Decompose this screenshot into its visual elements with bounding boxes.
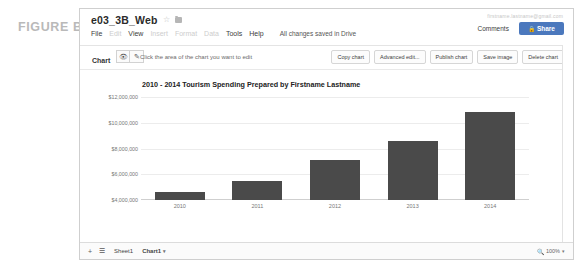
right-edge-strip [562, 45, 573, 243]
y-axis-tick-label: $12,000,000 [86, 94, 138, 100]
figure-label: FIGURE B [18, 20, 83, 34]
zoom-control[interactable]: 🔍 100% ▾ [537, 248, 565, 255]
document-title-row: e03_3B_Web ☆ [91, 14, 182, 26]
copy-chart-button[interactable]: Copy chart [331, 50, 370, 64]
x-axis-tick-label: 2011 [219, 203, 297, 209]
share-button[interactable]: 🔒 Share [519, 22, 564, 35]
chart-bar[interactable] [388, 141, 438, 200]
menu-edit[interactable]: Edit [109, 30, 121, 37]
bar-slot [141, 97, 219, 200]
menu-file[interactable]: File [91, 30, 102, 37]
menu-insert[interactable]: Insert [150, 30, 168, 37]
delete-chart-button[interactable]: Delete chart [522, 50, 564, 64]
x-axis-tick-label: 2012 [296, 203, 374, 209]
app-header: e03_3B_Web ☆ firstname.lastname@gmail.co… [80, 9, 573, 46]
chart-x-axis: 20102011201220132014 [141, 203, 529, 209]
eye-icon[interactable]: 👁 [116, 50, 130, 63]
chart-toolbar: Chart 👁 ✎ Click the area of the chart yo… [80, 46, 573, 70]
bar-slot [219, 97, 297, 200]
y-axis-tick-label: $6,000,000 [86, 171, 138, 177]
chart-toolbar-label: Chart [92, 57, 110, 64]
chart-bar[interactable] [310, 160, 360, 200]
sheet-tab-chart1-label: Chart1 [142, 248, 161, 254]
bar-slot [296, 97, 374, 200]
save-image-button[interactable]: Save image [477, 50, 518, 64]
x-axis-tick-label: 2010 [141, 203, 219, 209]
save-status: All changes saved in Drive [280, 30, 357, 37]
header-actions: Comments 🔒 Share [473, 22, 564, 35]
menu-help[interactable]: Help [249, 30, 263, 37]
sheet-tab-chart1[interactable]: Chart1 ▾ [142, 248, 166, 254]
menu-tools[interactable]: Tools [226, 30, 242, 37]
lock-icon: 🔒 [528, 26, 535, 32]
account-email[interactable]: firstname.lastname@gmail.com [487, 13, 563, 19]
bar-slot [374, 97, 452, 200]
chart-bars [141, 97, 529, 200]
x-axis-tick-label: 2014 [451, 203, 529, 209]
spreadsheet-window: e03_3B_Web ☆ firstname.lastname@gmail.co… [79, 8, 574, 260]
menu-bar: File Edit View Insert Format Data Tools … [91, 30, 356, 37]
comments-button[interactable]: Comments [473, 23, 512, 34]
magnifier-icon: 🔍 [537, 248, 544, 255]
document-title[interactable]: e03_3B_Web [91, 14, 158, 26]
chart-canvas[interactable]: 2010 - 2014 Tourism Spending Prepared by… [80, 70, 573, 236]
chart-bar[interactable] [155, 192, 205, 200]
y-axis-tick-label: $10,000,000 [86, 120, 138, 126]
zoom-caret-down-icon[interactable]: ▾ [562, 248, 565, 254]
plus-icon[interactable]: + [88, 248, 92, 255]
star-icon[interactable]: ☆ [163, 16, 170, 24]
publish-chart-button[interactable]: Publish chart [430, 50, 474, 64]
sheet-tab-sheet1[interactable]: Sheet1 [114, 248, 133, 254]
chart-plot-area: 20102011201220132014 $4,000,000$6,000,00… [80, 70, 573, 236]
zoom-level: 100% [546, 248, 560, 254]
chart-edit-hint: Click the area of the chart you want to … [140, 54, 252, 60]
y-axis-tick-label: $4,000,000 [86, 197, 138, 203]
y-axis-tick-label: $8,000,000 [86, 146, 138, 152]
caret-down-icon[interactable]: ▾ [163, 248, 166, 254]
advanced-edit-button[interactable]: Advanced edit... [374, 50, 425, 64]
x-axis-tick-label: 2013 [374, 203, 452, 209]
menu-format[interactable]: Format [175, 30, 197, 37]
sheet-footer: + ☰ Sheet1 Chart1 ▾ 🔍 100% ▾ [80, 242, 573, 259]
list-icon[interactable]: ☰ [99, 247, 105, 255]
menu-data[interactable]: Data [204, 30, 219, 37]
chart-bar[interactable] [232, 181, 282, 200]
bar-slot [451, 97, 529, 200]
share-button-label: Share [537, 25, 555, 32]
chart-action-buttons: Copy chart Advanced edit... Publish char… [331, 50, 564, 64]
chart-bar[interactable] [465, 112, 515, 200]
folder-icon[interactable] [175, 17, 182, 23]
menu-view[interactable]: View [128, 30, 143, 37]
